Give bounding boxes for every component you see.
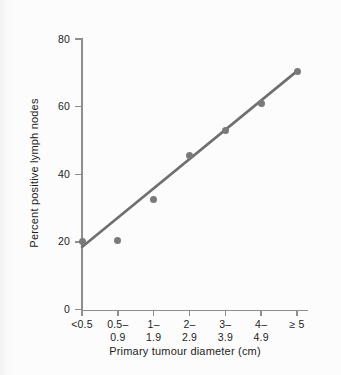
chart-figure: 020406080 <0.50.5–0.91–1.92–2.93–3.94–4.… — [0, 0, 341, 375]
plot-area: 020406080 <0.50.5–0.91–1.92–2.93–3.94–4.… — [0, 0, 341, 375]
trendline-svg — [0, 0, 341, 375]
x-axis-title: Primary tumour diameter (cm) — [60, 345, 310, 357]
trend-line — [82, 71, 297, 247]
y-axis-title: Percent positive lymph nodes — [28, 78, 40, 268]
